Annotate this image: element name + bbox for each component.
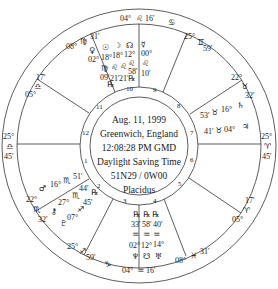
mars-sign-icon: ♏ [63,176,71,185]
house-number-9: 9 [153,86,157,94]
house-number-8: 8 [177,102,181,110]
cusp-2-deg: 22° [26,195,37,204]
cusp-10-deg: 04° [120,14,131,23]
house-number-6: 6 [190,156,194,164]
house-number-11: 11 [96,103,103,111]
house-number-7: 7 [190,129,194,137]
mars-deg: 16° [50,180,61,189]
saturn-deg: 16° [221,105,232,114]
south-node-min: 58' [142,220,152,229]
house-number-4: 4 [153,197,157,205]
neptune-retro-icon: ℞ [133,210,140,219]
uranus-deg: 14° [153,240,164,249]
house-number-12: 12 [82,129,90,137]
north-node-icon: ☊ [126,41,133,50]
chart-dst: Daylight Saving Time [97,157,181,167]
capricorn-sign-icon: ♑ [104,260,111,269]
chiron-deg: 27° [58,198,69,207]
jupiter-min: 41' [204,127,214,136]
cusp-10-min: 16' [145,14,155,23]
cusp-5-deg: 08° [175,256,186,265]
chart-coords: 51N29 / 0W00 [111,171,168,181]
venus-icon: ♀ [89,46,95,55]
chart-location: Greenwich, England [100,129,178,139]
chart-time: 12:08:28 PM GMD [102,143,177,153]
house-number-10: 10 [126,85,134,93]
cusp-9-min: 59' [203,44,213,53]
aquarius-sign-icon: ♒ [137,266,144,275]
chiron-icon: ⚷ [51,207,57,216]
chiron-retro-icon: ℞ [91,188,98,197]
cusp-8-deg: 22° [231,73,242,82]
cusp-line-5 [164,199,186,256]
mercury-deg: 00° [141,49,152,58]
uranus-sign-icon: ♒ [153,230,160,239]
cancer-sign-icon: ♋ [168,18,175,27]
cusp-11-min: 31' [90,32,100,41]
sun-deg: 18° [101,53,112,62]
natal-chart-wheel: 10 9 8 7 6 5 4 3 2 1 12 11 Aug. 11, 1999… [0,0,278,289]
mercury-sign-icon: ♌ [142,59,149,68]
libra-sign-icon: ♎ [6,142,13,151]
jupiter-deg: 04° [224,125,235,134]
pluto-min: 45' [83,198,93,207]
pisces-sign-icon: ♓ [190,251,197,260]
node-min: 58' [128,67,138,76]
chart-date: Aug. 11, 1999 [112,115,166,125]
jupiter-sign-icon: ♉ [215,126,222,135]
aries-sign-icon-6: ♈ [243,206,250,215]
pluto-deg: 07° [67,213,78,222]
cusp-4-deg: 04° [122,266,133,275]
mercury-icon: ☿ [141,40,146,49]
cusp-line-3 [84,199,113,255]
taurus-sign-icon: ♉ [241,82,248,91]
neptune-deg: 02° [129,241,140,250]
house-number-1: 1 [84,157,88,165]
cusp-6-deg: 05° [232,215,243,224]
cusp-3-deg: 25° [67,242,78,251]
uranus-icon: ♅ [155,252,162,261]
mars-icon: ♂ [39,184,46,193]
sun-icon: ☉ [102,43,109,52]
uranus-min: 40' [153,220,163,229]
south-node-sign-icon: ♒ [143,230,150,239]
jupiter-icon: ♃ [242,122,249,131]
cusp-6-min: 17' [245,196,255,205]
cusp-1-deg: 25° [3,132,14,141]
house-number-3: 3 [123,197,127,205]
cusp-12-deg: 05° [25,90,36,99]
moon-sign-icon: ♌ [120,62,127,71]
cusp-line-6 [189,178,241,213]
node-deg: 12° [124,50,135,59]
cusp-7-deg: 25° [261,132,272,141]
cusp-3-min: 59' [86,253,96,262]
saturn-sign-icon: ♉ [211,108,218,117]
cusp-7-min: 45' [262,152,272,161]
mars-min: 51' [73,172,83,181]
moon-icon: ☽ [114,41,121,50]
saturn-min: 53' [200,111,210,120]
venus-deg: 02° [88,55,99,64]
house-number-5: 5 [178,180,182,188]
venus-sign-icon: ♍ [101,64,108,73]
scorpio-sign-icon: ♏ [33,205,41,214]
saturn-icon: ♄ [237,101,244,110]
neptune-icon: ♆ [132,252,139,261]
cusp-5-min: 31' [200,247,210,256]
cusp-4-min: 16' [146,266,156,275]
virgo-sign-icon: ♍ [80,37,87,46]
cusp-12-min: 17' [36,73,46,82]
south-node-retro-icon: ℞ [143,210,150,219]
neptune-min: 33' [131,220,141,229]
cusp-11-deg: 08° [66,42,77,51]
mercury-min: 10' [141,69,151,78]
moon-deg: 18° [112,51,123,60]
cusp-9-deg: 25° [184,32,195,41]
cusp-line-9 [163,33,187,92]
chart-house-system: Placidus [123,185,155,195]
leo-sign-icon: ♌ [136,14,143,23]
cusp-2-min: 32' [38,215,48,224]
south-node-icon: ☋ [143,252,150,261]
south-node-deg: 12° [141,241,152,250]
uranus-retro-icon: ℞ [152,210,159,219]
